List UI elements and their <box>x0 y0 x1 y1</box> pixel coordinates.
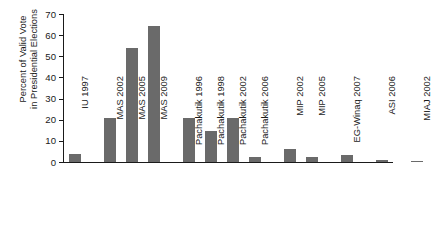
y-axis-tick: 0 <box>59 162 63 163</box>
x-axis-line <box>63 162 393 163</box>
y-axis-tick: 60 <box>59 35 63 36</box>
y-axis-title-line-2: in Presidential Elections <box>29 9 40 109</box>
x-axis-label: EG-Winaq 2007 <box>352 76 363 166</box>
y-axis-tick: 70 <box>59 14 63 15</box>
x-axis-label: Pachakutik 2006 <box>260 76 271 166</box>
x-axis-label: MAS 2009 <box>159 76 170 166</box>
x-axis-label: MAS 2005 <box>137 76 148 166</box>
y-axis-tick-label: 10 <box>45 134 56 147</box>
x-axis-label: Pachakutik 2002 <box>238 76 249 166</box>
x-axis-label: IU 1997 <box>80 76 91 166</box>
y-axis-tick: 10 <box>59 141 63 142</box>
y-axis-tick-label: 40 <box>45 71 56 84</box>
plot-area: 010203040506070 <box>63 14 393 162</box>
x-axis-label: MIAJ 2002 <box>422 76 433 166</box>
y-axis-tick-label: 30 <box>45 92 56 105</box>
y-axis-tick: 40 <box>59 77 63 78</box>
y-axis-tick-label: 70 <box>45 8 56 21</box>
x-axis-label: MIP 2002 <box>295 76 306 166</box>
y-axis-title-line-1: Percent of Valid Vote <box>18 15 29 102</box>
x-axis-label: Pachakutik 1996 <box>194 76 205 166</box>
y-axis-title: Percent of Valid Vote in Presidential El… <box>14 0 44 145</box>
x-axis-label: ASI 2006 <box>387 76 398 166</box>
y-axis-tick-label: 60 <box>45 29 56 42</box>
y-axis-tick: 30 <box>59 99 63 100</box>
y-axis-tick-label: 20 <box>45 113 56 126</box>
x-axis-label: MAS 2002 <box>115 76 126 166</box>
y-axis-tick: 20 <box>59 120 63 121</box>
y-axis-tick-label: 50 <box>45 50 56 63</box>
y-axis-tick-label: 0 <box>51 156 56 169</box>
y-axis-tick: 50 <box>59 56 63 57</box>
x-axis-label: Pachakutik 1998 <box>216 76 227 166</box>
y-axis-line <box>63 14 64 163</box>
x-axis-label: MIP 2005 <box>317 76 328 166</box>
